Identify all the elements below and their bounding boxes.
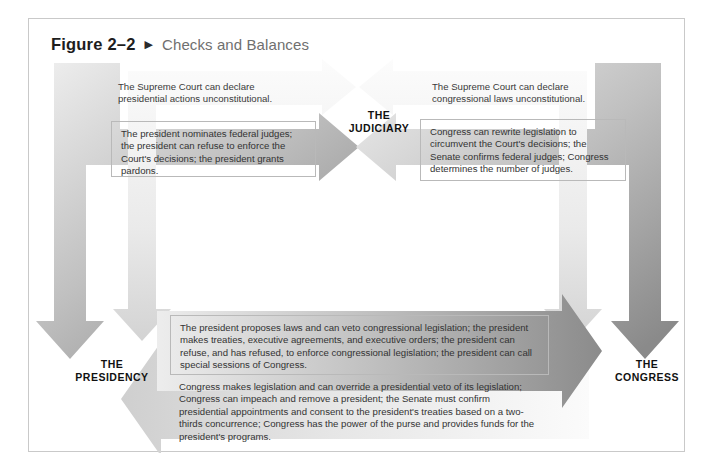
text-court-to-congress: The Supreme Court can declare congressio… <box>423 75 633 115</box>
node-judiciary-line1: THE <box>334 109 424 122</box>
text-congress-to-president: Congress makes legislation and can overr… <box>170 375 549 438</box>
node-presidency-line2: PRESIDENCY <box>57 371 167 384</box>
text-president-to-congress: The president proposes laws and can veto… <box>170 315 549 375</box>
node-congress-line2: CONGRESS <box>602 371 692 384</box>
node-presidency-line1: THE <box>57 358 167 371</box>
node-label-congress: THE CONGRESS <box>602 358 692 384</box>
text-president-to-court: The president nominates federal judges; … <box>111 121 316 177</box>
text-court-to-president: The Supreme Court can declare presidenti… <box>109 75 314 115</box>
node-judiciary-line2: JUDICIARY <box>334 122 424 135</box>
text-congress-to-court: Congress can rewrite legislation to circ… <box>420 119 626 181</box>
node-label-presidency: THE PRESIDENCY <box>57 358 167 384</box>
checks-and-balances-diagram: THE JUDICIARY THE PRESIDENCY THE CONGRES… <box>29 19 686 453</box>
node-label-judiciary: THE JUDICIARY <box>334 109 424 135</box>
node-congress-line1: THE <box>602 358 692 371</box>
figure-frame: Figure 2–2 ▶ Checks and Balances <box>28 18 685 452</box>
